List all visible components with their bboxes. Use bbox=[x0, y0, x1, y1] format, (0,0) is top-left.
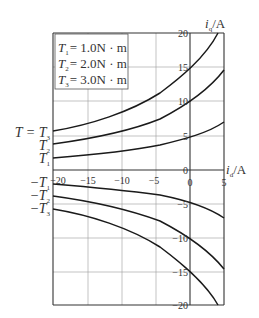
svg-text:20: 20 bbox=[178, 28, 188, 39]
svg-text:−20: −20 bbox=[172, 300, 188, 311]
y-axis-title: iq/A bbox=[205, 16, 226, 33]
svg-text:15: 15 bbox=[178, 62, 188, 73]
curve-annotations: T = T3 T2 T1 −T1 −T2 −T3 bbox=[15, 125, 51, 218]
svg-text:−20: −20 bbox=[50, 175, 66, 186]
curve-neg-T2 bbox=[53, 196, 224, 269]
svg-text:10: 10 bbox=[178, 96, 188, 107]
torque-current-chart: T1= 1.0N · m T2= 2.0N · m T3= 3.0N · m i… bbox=[0, 0, 259, 318]
svg-text:−15: −15 bbox=[172, 267, 188, 278]
curve-neg-T1 bbox=[53, 184, 224, 218]
svg-text:0: 0 bbox=[188, 177, 193, 188]
svg-text:−10: −10 bbox=[114, 175, 130, 186]
svg-text:5: 5 bbox=[222, 177, 227, 188]
curve-neg-T3 bbox=[53, 209, 218, 305]
svg-text:−15: −15 bbox=[80, 175, 96, 186]
legend: T1= 1.0N · m T2= 2.0N · m T3= 3.0N · m bbox=[55, 34, 128, 89]
svg-text:−5: −5 bbox=[149, 175, 160, 186]
svg-text:−5: −5 bbox=[177, 199, 188, 210]
svg-text:5: 5 bbox=[183, 131, 188, 142]
x-axis-title: id/A bbox=[226, 162, 247, 179]
svg-text:0: 0 bbox=[183, 165, 188, 176]
svg-text:−10: −10 bbox=[172, 233, 188, 244]
